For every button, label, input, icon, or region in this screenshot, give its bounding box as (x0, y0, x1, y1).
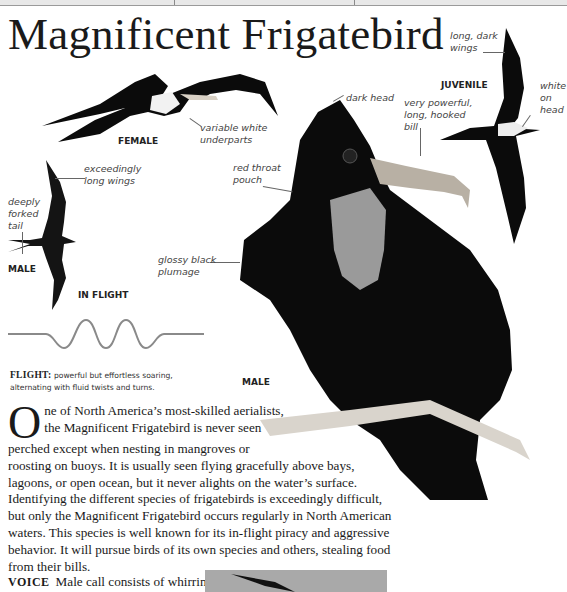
flight-pattern-wave (6, 318, 206, 348)
callout-dark-head: dark head (346, 92, 394, 104)
callout-white-on-head: white on head (540, 80, 566, 116)
description-line: ne of North America’s most-skilled aeria… (8, 403, 380, 420)
callout-glossy-black-plumage: glossy black plumage (158, 254, 216, 278)
callout-exceedingly-long-wings: exceedingly long wings (84, 163, 141, 187)
female-tag: FEMALE (118, 136, 158, 146)
flight-text: powerful but effortless soaring, (52, 371, 173, 380)
voice-section: VOICEMale call consists of whirring, (8, 574, 216, 590)
page-top-edge (0, 0, 567, 6)
male-in-flight-tag: MALE (8, 264, 36, 274)
callout-text: bill (404, 121, 418, 132)
voice-text: Male call consists of whirring, (56, 574, 217, 589)
callout-text: wings (450, 42, 477, 53)
juvenile-frigatebird-illustration (440, 28, 550, 248)
male-in-flight-illustration (6, 160, 86, 310)
callout-text: red throat (233, 162, 281, 173)
description-line: Identifying the different species of fri… (8, 491, 380, 508)
habitat-photo (205, 570, 387, 592)
callout-red-throat-pouch: red throat pouch (233, 162, 281, 186)
callout-text: long, dark (450, 30, 498, 41)
edge-tick (174, 0, 175, 5)
leader-line (22, 232, 23, 254)
callout-long-dark-wings: long, dark wings (450, 30, 498, 54)
callout-text: glossy black (158, 254, 216, 265)
description-line: perched except when nesting in mangroves… (8, 441, 380, 458)
in-flight-tag: IN FLIGHT (78, 290, 128, 300)
callout-text: tail (8, 220, 23, 231)
callout-text: on (540, 92, 552, 103)
description-line: waters. This species is well known for i… (8, 525, 380, 542)
callout-text: exceedingly (84, 163, 141, 174)
male-perched-tag: MALE (242, 377, 270, 387)
leader-line (55, 178, 85, 179)
callout-text: deeply (8, 196, 40, 207)
callout-text: head (540, 104, 564, 115)
juvenile-tag: JUVENILE (441, 80, 488, 90)
description-line: lagoons, or open ocean, but it never ali… (8, 475, 380, 492)
description-line: but only the Magnificent Frigatebird occ… (8, 508, 380, 525)
voice-label: VOICE (8, 575, 50, 589)
description-line: roosting on buoys. It is usually seen fl… (8, 458, 380, 475)
callout-text: forked (8, 208, 38, 219)
drop-cap: O (8, 405, 41, 441)
callout-deeply-forked-tail: deeply forked tail (8, 196, 40, 232)
callout-text: white (540, 80, 566, 91)
page-title: Magnificent Frigatebird (8, 8, 444, 60)
edge-tick (354, 0, 355, 5)
callout-text: long wings (84, 175, 135, 186)
species-description: O ne of North America’s most-skilled aer… (8, 403, 380, 575)
flight-caption: FLIGHT: powerful but effortless soaring,… (10, 369, 210, 394)
callout-text: plumage (158, 266, 200, 277)
flight-label: FLIGHT: (10, 370, 52, 380)
flight-text: alternating with fluid twists and turns. (10, 383, 155, 392)
bird-silhouette-photo (205, 570, 387, 592)
callout-text: pouch (233, 174, 262, 185)
description-line: the Magnificent Frigatebird is never see… (8, 420, 380, 437)
description-line: behavior. It will pursue birds of its ow… (8, 542, 380, 559)
